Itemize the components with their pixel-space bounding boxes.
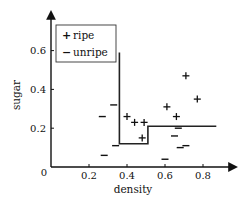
y-tick-label: 0.6 bbox=[30, 45, 46, 56]
ripe-point bbox=[131, 119, 138, 126]
x-tick-label: 0.6 bbox=[157, 170, 173, 181]
ripe-point bbox=[173, 113, 180, 120]
legend-symbol-ripe: + bbox=[62, 29, 71, 42]
ripe-point bbox=[124, 113, 131, 120]
ripe-point bbox=[141, 119, 148, 126]
ripe-point bbox=[194, 96, 201, 103]
legend: + ripe − unripe bbox=[56, 25, 116, 62]
y-tick-label: 0.2 bbox=[30, 123, 46, 134]
legend-label-unripe: unripe bbox=[73, 46, 108, 58]
scatter-chart: 0.20.40.60.8 0.20.40.6 0 density sugar +… bbox=[0, 0, 247, 203]
legend-label-ripe: ripe bbox=[73, 29, 94, 41]
ripe-point bbox=[139, 134, 146, 141]
origin-label: 0 bbox=[41, 167, 47, 178]
x-tick-label: 0.4 bbox=[119, 170, 135, 181]
y-axis-label: sugar bbox=[10, 79, 22, 110]
ripe-point bbox=[182, 72, 189, 79]
data-points bbox=[99, 72, 201, 159]
legend-symbol-unripe: − bbox=[62, 46, 71, 59]
x-axis-label: density bbox=[114, 183, 153, 195]
y-tick-label: 0.4 bbox=[30, 84, 46, 95]
x-tick-label: 0.8 bbox=[195, 170, 211, 181]
ripe-point bbox=[163, 103, 170, 110]
decision-boundary bbox=[119, 53, 216, 144]
x-tick-label: 0.2 bbox=[81, 170, 97, 181]
